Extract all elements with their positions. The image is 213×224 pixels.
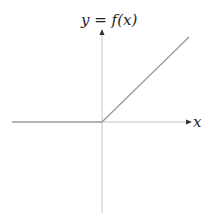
y-axis-arrow-icon — [100, 29, 105, 35]
relu-diagram: y = f(x) x — [0, 0, 213, 224]
x-axis-arrow-icon — [186, 120, 192, 125]
function-linear-segment — [102, 37, 189, 122]
x-axis-label: x — [193, 113, 202, 131]
y-axis-label: y = f(x) — [80, 11, 137, 29]
